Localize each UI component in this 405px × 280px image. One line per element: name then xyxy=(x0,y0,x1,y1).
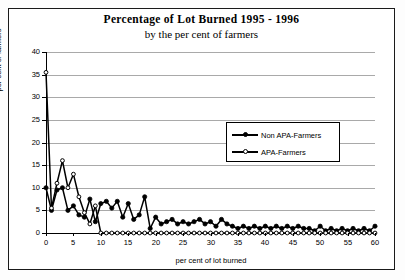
y-axis-tick-label: 20 xyxy=(14,139,40,147)
x-axis-tick-mark xyxy=(183,233,184,236)
x-axis-tick-label: 10 xyxy=(89,239,113,247)
y-axis-tick-mark xyxy=(42,120,46,121)
x-axis-tick-label: 15 xyxy=(116,239,140,247)
y-axis-tick-mark xyxy=(42,210,46,211)
filled-circle-marker-icon xyxy=(232,130,258,140)
x-axis-tick-mark xyxy=(128,233,129,236)
x-axis-tick-mark xyxy=(101,233,102,236)
y-axis-tick-label: 10 xyxy=(14,184,40,192)
y-axis-tick-label: 35 xyxy=(14,71,40,79)
chart-titles: Percentage of Lot Burned 1995 - 1996 by … xyxy=(8,12,395,41)
x-axis-tick-mark xyxy=(320,233,321,236)
y-axis-tick-mark xyxy=(42,75,46,76)
x-axis-tick-label: 40 xyxy=(253,239,277,247)
x-axis-label: per cent of lot burned xyxy=(46,256,376,265)
y-axis-tick-label: 25 xyxy=(14,116,40,124)
x-axis-tick-label: 30 xyxy=(199,239,223,247)
y-axis-tick-label: 30 xyxy=(14,93,40,101)
x-axis-tick-label: 35 xyxy=(226,239,250,247)
gridline xyxy=(46,210,375,211)
y-axis-tick-mark xyxy=(42,52,46,53)
y-axis-tick-label: 0 xyxy=(14,229,40,237)
x-axis-tick-mark xyxy=(156,233,157,236)
x-axis-tick-label: 0 xyxy=(34,239,58,247)
y-axis-tick-label: 5 xyxy=(14,206,40,214)
x-axis-tick-mark xyxy=(265,233,266,236)
gridline xyxy=(46,188,375,189)
x-axis-tick-label: 20 xyxy=(144,239,168,247)
legend-item-apa-farmers: APA-Farmers xyxy=(232,145,306,159)
x-axis-tick-label: 50 xyxy=(308,239,332,247)
page-subtitle: by the per cent of farmers xyxy=(8,27,395,41)
gridline xyxy=(46,120,375,121)
gridline xyxy=(46,97,375,98)
x-axis-tick-mark xyxy=(293,233,294,236)
chart-page: Percentage of Lot Burned 1995 - 1996 by … xyxy=(0,0,405,280)
gridline xyxy=(46,52,375,53)
y-axis-tick-label: 15 xyxy=(14,161,40,169)
x-axis-tick-label: 60 xyxy=(363,239,387,247)
y-axis-tick-mark xyxy=(42,143,46,144)
legend-label: Non APA-Farmers xyxy=(261,131,321,140)
open-circle-marker-icon xyxy=(232,147,258,157)
chart-legend: Non APA-Farmers APA-Farmers xyxy=(226,122,340,162)
page-title: Percentage of Lot Burned 1995 - 1996 xyxy=(8,12,395,26)
legend-label: APA-Farmers xyxy=(261,148,306,157)
x-axis-tick-mark xyxy=(348,233,349,236)
y-axis-line xyxy=(46,52,47,234)
gridline xyxy=(46,165,375,166)
x-axis-tick-label: 55 xyxy=(336,239,360,247)
y-axis-label: per cent of farmers xyxy=(0,0,3,120)
y-axis-tick-mark xyxy=(42,188,46,189)
x-axis-tick-label: 45 xyxy=(281,239,305,247)
legend-item-non-apa-farmers: Non APA-Farmers xyxy=(232,128,321,142)
x-axis-tick-mark xyxy=(211,233,212,236)
gridline xyxy=(46,75,375,76)
x-axis-tick-mark xyxy=(375,233,376,236)
y-axis-tick-mark xyxy=(42,97,46,98)
x-axis-tick-label: 5 xyxy=(61,239,85,247)
x-axis-tick-mark xyxy=(73,233,74,236)
x-axis-tick-label: 25 xyxy=(171,239,195,247)
y-axis-tick-label: 40 xyxy=(14,48,40,56)
y-axis-tick-mark xyxy=(42,165,46,166)
x-axis-tick-mark xyxy=(238,233,239,236)
x-axis-tick-mark xyxy=(46,233,47,236)
